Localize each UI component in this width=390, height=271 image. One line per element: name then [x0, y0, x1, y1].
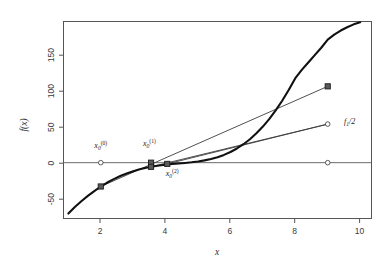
- function-curve: [68, 22, 360, 213]
- x0-iter2-root-marker: [165, 161, 170, 166]
- right-bracket-curve-marker: [325, 84, 330, 89]
- y-axis: -50 0 50 100 150 f(x): [19, 48, 64, 206]
- x0-iter1-curve-marker: [148, 164, 153, 169]
- x-tick-label-1: 4: [163, 226, 168, 236]
- x-tick-label-0: 2: [98, 226, 103, 236]
- y-tick-label-0: -50: [46, 193, 56, 206]
- secant-chord-3: [167, 124, 327, 164]
- x-tick-label-4: 10: [355, 226, 365, 236]
- y-tick-label-1: 0: [46, 161, 56, 166]
- y-tick-label-3: 100: [46, 84, 56, 98]
- y-tick-label-2: 50: [46, 122, 56, 132]
- label-x0-iter1: x0(1): [142, 138, 156, 149]
- x-axis-title: x: [214, 247, 220, 257]
- f(x): [68, 22, 360, 213]
- x-tick-label-2: 6: [227, 226, 232, 236]
- plot-frame: [64, 22, 372, 219]
- x0-iter0-root-marker: [98, 160, 103, 165]
- y-axis-title: f(x): [19, 118, 30, 131]
- plot-svg: -50 0 50 100 150 f(x) 2 4 6 8 10 x x0(0)…: [0, 0, 390, 271]
- label-f-half: f1/2: [344, 117, 355, 127]
- x0-iter0-curve-marker: [98, 184, 103, 189]
- label-x0-iter2: x0(2): [165, 168, 179, 179]
- x-axis: 2 4 6 8 10 x: [98, 219, 365, 258]
- point-annotations: x0(0)x0(1)x0(2)f1/2: [93, 117, 355, 179]
- chart-figure: -50 0 50 100 150 f(x) 2 4 6 8 10 x x0(0)…: [0, 0, 390, 271]
- y-tick-label-4: 150: [46, 48, 56, 62]
- half-f-marker: [325, 122, 330, 127]
- x-tick-label-3: 8: [292, 226, 297, 236]
- right-bracket-root-marker: [325, 160, 330, 165]
- label-x0-iter0: x0(0): [93, 140, 107, 151]
